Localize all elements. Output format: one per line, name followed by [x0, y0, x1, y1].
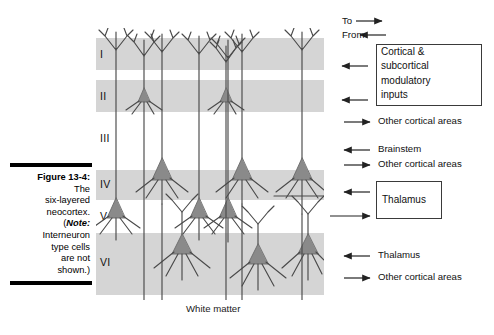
legend-box-modulatory-line-4: inputs [381, 89, 408, 101]
legend-box-modulatory-line-3: modulatory [381, 75, 430, 87]
legend-label-thalamus-bottom: Thalamus [378, 249, 420, 260]
legend-box-modulatory-line-2: subcortical [381, 60, 429, 72]
white-matter-label: White matter [186, 303, 240, 314]
caption-line-6: type cells [51, 242, 90, 252]
legend-box-thalamus-label: Thalamus [382, 194, 426, 206]
caption-figure-number: Figure 13-4: [37, 172, 90, 182]
legend-label-brainstem: Brainstem [378, 143, 421, 154]
caption-line-5: Interneuron [42, 230, 90, 240]
legend-label-other-cortical-3: Other cortical areas [378, 271, 462, 282]
caption-line-3: six-layered [45, 195, 90, 205]
figure-caption-block: Figure 13-4: The six-layered neocortex. … [6, 163, 92, 285]
legend-label-other-cortical-2: Other cortical areas [378, 158, 462, 169]
legend-label-from: From [342, 29, 364, 40]
legend-box-modulatory-line-1: Cortical & [381, 46, 424, 58]
caption-note-label: Note: [66, 218, 90, 228]
caption-rule-bottom [10, 281, 92, 285]
cortex-diagram: I II III IV V VI [96, 28, 324, 300]
figure-page: Figure 13-4: The six-layered neocortex. … [0, 0, 494, 335]
caption-line-7: are not [61, 253, 90, 263]
caption-line-8: shown.) [57, 265, 90, 275]
legend-label-to: To [342, 15, 352, 26]
legend-label-other-cortical-1: Other cortical areas [378, 115, 462, 126]
pyramidal-neuron-illustration [96, 28, 324, 300]
figure-caption-text: Figure 13-4: The six-layered neocortex. … [6, 167, 92, 281]
caption-line-2: The [74, 184, 90, 194]
caption-line-4: neocortex. [47, 207, 90, 217]
